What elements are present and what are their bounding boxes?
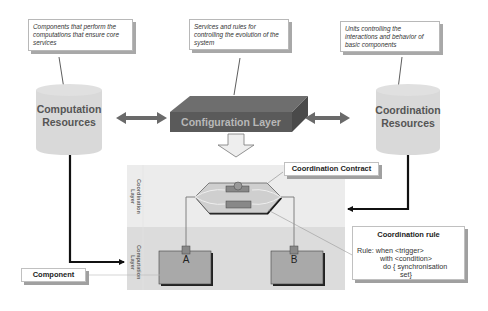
double-arrow-right [305,112,350,124]
computation-layer-line1: Computation [136,245,142,280]
rule-line3: do { synchronisation [383,262,447,271]
rule-title: Coordination rule [353,230,464,239]
coordination-contract-hexagon [195,182,282,215]
rule-line4: set} [400,270,412,279]
arrow-computation-to-layer [70,155,124,262]
note-coordination: Units controlling the interactions and b… [340,21,440,52]
component-label: Component [21,268,86,282]
note-computation: Components that perform the computations… [28,19,133,51]
component-b-label: B [287,254,301,265]
note-connector-configuration [234,58,240,95]
computation-label-line1: Computation [36,103,102,116]
coordination-resources-label: Coordination Resources [374,104,442,130]
down-arrow [218,134,254,157]
double-arrow-left [116,112,167,124]
coordination-rule-box: Coordination rule Rule: when <trigger> w… [352,226,465,280]
configuration-layer-label: Configuration Layer [170,116,292,128]
coordination-label-line2: Resources [374,117,442,130]
computation-layer-line2: Layer [130,255,136,270]
computation-resources-label: Computation Resources [36,103,102,129]
coordination-contract-label: Coordination Contract [284,162,379,176]
computation-label-line2: Resources [36,116,102,129]
component-a-box [159,246,213,286]
note-configuration: Services and rules for controlling the e… [189,19,289,50]
coordination-label-line1: Coordination [374,104,442,117]
coordination-layer-label: Coordination Layer [130,176,142,216]
coordination-layer-line2: Layer [130,189,136,204]
component-b-box [271,246,325,286]
coordination-layer-line1: Coordination [136,179,142,214]
computation-layer-label: Computation Layer [130,242,142,282]
component-a-label: A [179,254,193,265]
